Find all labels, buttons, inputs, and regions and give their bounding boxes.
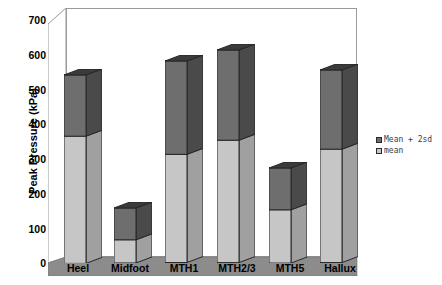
x-tick-label-mth1: MTH1 (158, 262, 210, 274)
bar-segment-mean-side (239, 135, 255, 263)
x-tick-label-mth5: MTH5 (264, 262, 316, 274)
bar-prism (165, 55, 203, 263)
bar-prism (217, 44, 255, 263)
plot-area (48, 8, 360, 276)
bar-segment-mean-side (86, 130, 102, 263)
bar-segment-sd-front (114, 208, 136, 240)
bar-segment-sd-side (187, 55, 203, 154)
bar-segment-sd-front (64, 75, 86, 136)
y-tick-label: 400 (12, 119, 46, 129)
bar-segment-sd-front (217, 50, 239, 140)
y-tick-label: 500 (12, 85, 46, 95)
y-tick-label: 600 (12, 50, 46, 60)
legend-item-mean: mean (376, 145, 442, 156)
x-tick-label-mth23: MTH2/3 (208, 262, 266, 274)
bar-segment-mean-front (320, 150, 342, 263)
bar-midfoot[interactable] (114, 208, 136, 263)
bar-prism (269, 162, 307, 263)
x-tick-label-midfoot: Midfoot (102, 262, 158, 274)
bar-segment-mean-front (269, 210, 291, 263)
bar-segment-mean-side (342, 144, 358, 263)
bar-segment-sd-front (320, 70, 342, 149)
y-tick-label: 300 (12, 154, 46, 164)
bar-segment-mean-front (217, 141, 239, 263)
chart-figure: Peak Pressure (kPa) 700 600 500 400 300 … (0, 0, 442, 285)
legend-swatch-mean-icon (376, 148, 382, 154)
legend-swatch-mean-plus-2sd-icon (376, 137, 382, 143)
bar-segment-mean-front (165, 155, 187, 263)
bar-segment-sd-side (136, 202, 152, 240)
bar-prism (114, 202, 152, 263)
y-tick-label: 700 (12, 15, 46, 25)
chart-legend: Mean + 2sd mean (376, 134, 442, 160)
bar-segment-mean-side (187, 149, 203, 263)
bar-prism (64, 69, 102, 263)
bar-segment-sd-front (165, 61, 187, 154)
x-tick-label-hallux: Hallux (312, 262, 368, 274)
bar-segment-mean-front (64, 136, 86, 263)
x-axis-tick-labels: Heel Midfoot MTH1 MTH2/3 MTH5 Hallux (48, 262, 368, 282)
legend-label-mean-plus-2sd: Mean + 2sd (384, 135, 432, 144)
bar-segment-mean-side (291, 204, 307, 263)
bar-segment-sd-side (239, 44, 255, 140)
bar-hallux[interactable] (320, 70, 342, 263)
legend-item-mean-plus-2sd: Mean + 2sd (376, 134, 442, 145)
bar-mth2-3[interactable] (217, 50, 239, 263)
legend-label-mean: mean (384, 146, 403, 155)
bar-segment-mean-front (114, 240, 136, 263)
y-axis-tick-labels: 700 600 500 400 300 200 100 0 (6, 0, 46, 285)
bars-container (48, 8, 360, 276)
bar-segment-sd-side (86, 69, 102, 136)
bar-mth1[interactable] (165, 61, 187, 263)
bar-segment-sd-side (342, 64, 358, 149)
bar-segment-sd-front (269, 168, 291, 210)
bar-segment-sd-side (291, 162, 307, 210)
y-tick-label: 200 (12, 189, 46, 199)
bar-mth5[interactable] (269, 168, 291, 263)
y-tick-label: 0 (12, 258, 46, 268)
x-tick-label-heel: Heel (54, 262, 102, 274)
bar-prism (320, 64, 358, 263)
bar-heel[interactable] (64, 75, 86, 263)
y-tick-label: 100 (12, 224, 46, 234)
